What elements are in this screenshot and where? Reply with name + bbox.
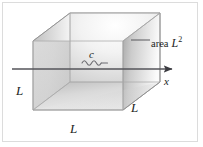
side-length-label-right: L <box>131 101 138 114</box>
physics-cube-figure: areaL2 L L L c x <box>0 0 203 147</box>
side-length-label-left: L <box>16 84 23 97</box>
x-axis-label: x <box>164 76 169 87</box>
area-label: areaL2 <box>151 35 182 51</box>
cube-illustration <box>0 0 203 147</box>
area-label-text: area <box>151 38 168 49</box>
side-length-label-bottom: L <box>70 122 77 135</box>
speed-of-light-label: c <box>89 49 94 60</box>
area-label-exponent: 2 <box>178 35 182 44</box>
